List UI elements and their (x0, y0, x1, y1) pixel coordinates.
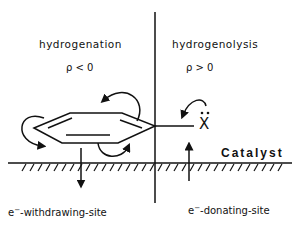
hydrogenation-title: hydrogenation (39, 38, 122, 50)
donating-site-label: e−-donating-site (188, 204, 270, 216)
hydrogenation-rho: ρ < 0 (66, 62, 93, 73)
donating-site-text: -donating-site (200, 205, 270, 216)
hydrogenolysis-title: hydrogenolysis (172, 38, 258, 50)
benzene-ring (34, 113, 155, 143)
electron-flow-arrows (22, 93, 206, 157)
lone-pair-dot (207, 112, 210, 115)
withdrawing-site-text: -withdrawing-site (20, 207, 107, 218)
lone-pair-dot (201, 112, 204, 115)
catalyst-label: Catalyst (221, 146, 284, 160)
hydrogenolysis-rho: ρ > 0 (186, 62, 213, 73)
withdrawing-site-label: e−-withdrawing-site (8, 206, 107, 218)
surface-hatching (22, 164, 282, 171)
leaving-group-x: X (199, 115, 209, 133)
diagram-canvas (0, 0, 299, 230)
